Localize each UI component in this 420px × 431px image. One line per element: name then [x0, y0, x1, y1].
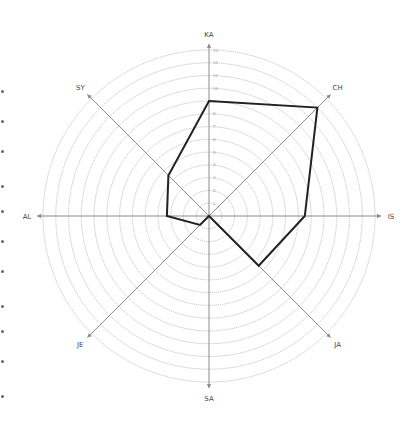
axis-label-al: AL — [23, 213, 32, 221]
edge-mark — [1, 150, 4, 153]
edge-mark — [1, 330, 4, 333]
axis-label-sa: SA — [204, 395, 214, 403]
tick-label: 13 — [213, 48, 219, 53]
radar-chart: 12345678910111213 KACHISJASAJEALSY — [0, 0, 420, 431]
tick-label: 10 — [213, 86, 219, 91]
axis-label-ch: CH — [333, 84, 343, 92]
edge-mark — [1, 270, 4, 273]
edge-mark — [1, 240, 4, 243]
tick-label: 3 — [213, 175, 216, 180]
arrow-icon — [207, 44, 211, 48]
edge-mark — [1, 120, 4, 123]
arrow-icon — [207, 384, 211, 388]
edge-mark — [1, 90, 4, 93]
tick-label: 2 — [213, 188, 216, 193]
axis-label-je: JE — [76, 341, 84, 349]
edge-mark — [1, 185, 4, 188]
tick-label: 12 — [213, 60, 219, 65]
arrow-icon — [377, 214, 381, 218]
edge-mark — [1, 210, 4, 213]
axis-label-ja: JA — [333, 341, 341, 349]
edge-mark — [1, 360, 4, 363]
edge-mark — [1, 305, 4, 308]
axis-label-sy: SY — [76, 84, 85, 92]
tick-label: 8 — [213, 111, 216, 116]
arrow-icon — [37, 214, 41, 218]
axis-label-ka: KA — [204, 31, 213, 39]
edge-mark — [1, 395, 4, 398]
tick-label: 4 — [213, 162, 216, 167]
tick-labels: 12345678910111213 — [213, 48, 219, 206]
axis-label-is: IS — [388, 213, 395, 221]
tick-label: 11 — [213, 73, 219, 78]
